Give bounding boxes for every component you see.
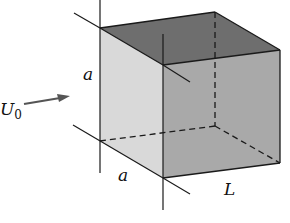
right-face [163,50,280,178]
length-label: L [223,179,235,199]
flow-velocity-label: U0 [0,99,22,122]
flow-arrow [24,94,70,104]
cube-diagram: U0 a a L [0,0,290,223]
width-label: a [118,165,128,185]
height-label: a [83,64,93,84]
